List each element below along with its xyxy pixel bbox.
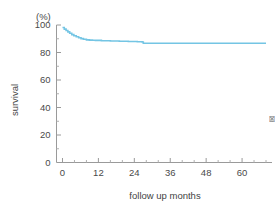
cropped-edge-label: 図 xyxy=(269,116,275,122)
y-tick-label: 40 xyxy=(40,102,51,113)
x-tick-label: 48 xyxy=(201,167,212,178)
survival-chart: (%) survival follow up months 0204060801… xyxy=(0,0,276,206)
x-axis-ticks xyxy=(62,158,266,163)
x-axis-tick-labels: 01224364860 xyxy=(60,167,248,178)
series-group xyxy=(62,27,266,43)
x-axis-title: follow up months xyxy=(129,190,201,201)
y-tick-label: 0 xyxy=(45,157,50,168)
survival-curve-line xyxy=(62,27,266,43)
x-tick-label: 0 xyxy=(60,167,65,178)
y-tick-label: 20 xyxy=(40,129,51,140)
x-tick-label: 60 xyxy=(237,167,248,178)
y-axis-title: survival xyxy=(9,84,20,116)
y-axis-tick-labels: 020406080100 xyxy=(35,19,51,168)
chart-canvas: (%) survival follow up months 0204060801… xyxy=(0,0,276,206)
x-tick-label: 12 xyxy=(93,167,104,178)
y-tick-label: 80 xyxy=(40,47,51,58)
x-tick-label: 24 xyxy=(129,167,140,178)
y-tick-label: 100 xyxy=(35,19,51,30)
y-tick-label: 60 xyxy=(40,74,51,85)
x-tick-label: 36 xyxy=(165,167,176,178)
y-axis-ticks xyxy=(57,25,62,163)
